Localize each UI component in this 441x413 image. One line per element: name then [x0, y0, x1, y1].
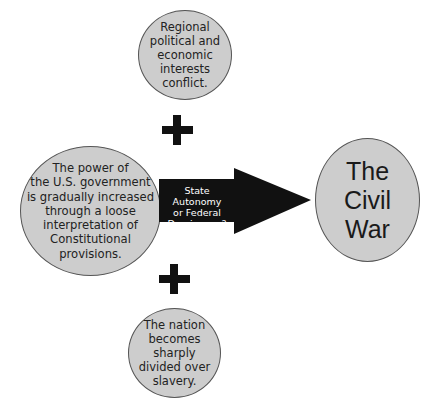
cause-text-regional-interests: Regional political and economic interest…	[150, 20, 220, 90]
cause-circle-slavery: The nation becomes sharply divided over …	[128, 308, 221, 398]
cause-circle-regional-interests: Regional political and economic interest…	[138, 10, 232, 100]
result-text-civil-war: The Civil War	[344, 157, 391, 244]
cause-text-federal-power: The power of the U.S. government is grad…	[27, 161, 154, 260]
arrow-label: State Autonomy or Federal Dominance?	[160, 185, 234, 229]
result-circle-civil-war: The Civil War	[315, 138, 420, 262]
cause-circle-federal-power: The power of the U.S. government is grad…	[20, 146, 161, 276]
cause-text-slavery: The nation becomes sharply divided over …	[139, 318, 210, 388]
